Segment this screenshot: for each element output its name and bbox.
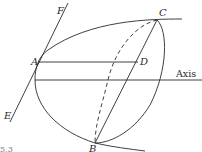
paraboloid-diagram: F C A D Axis E B 5.3 xyxy=(0,0,202,152)
tangent-line-ef xyxy=(10,3,68,122)
label-c: C xyxy=(159,7,167,18)
label-a: A xyxy=(30,56,38,67)
figure-caption-fragment: 5.3 xyxy=(0,145,13,152)
parabola-curve xyxy=(35,19,182,151)
label-b: B xyxy=(88,143,96,152)
label-d: D xyxy=(139,56,148,67)
label-e: E xyxy=(3,110,12,121)
ellipse-front-solid xyxy=(95,20,165,143)
label-axis: Axis xyxy=(175,68,196,79)
label-f: F xyxy=(56,5,65,16)
chord-bc xyxy=(95,20,157,143)
